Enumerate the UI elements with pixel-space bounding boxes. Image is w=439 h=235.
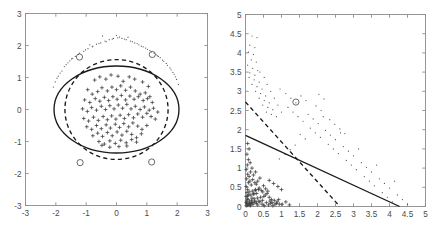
data-point-dot <box>87 48 88 49</box>
data-point-dot <box>361 162 362 163</box>
data-point-dot <box>264 77 265 78</box>
x-tick-label: 3 <box>205 209 210 218</box>
data-point-dot <box>356 169 357 170</box>
x-tick-label: 1 <box>279 210 284 219</box>
data-point-dot <box>287 107 288 108</box>
data-point-dot <box>59 72 60 73</box>
data-point-dot <box>256 37 257 38</box>
data-point-dot <box>335 139 336 140</box>
x-tick-label: 1 <box>145 209 150 218</box>
y-tick-label: 3 <box>237 87 242 96</box>
data-point-dot <box>254 79 255 80</box>
data-point-dot <box>320 137 321 138</box>
left-axis-frame <box>26 14 208 206</box>
data-point-dot <box>55 81 56 82</box>
right-data-points <box>244 35 408 207</box>
data-point-dot <box>346 160 347 161</box>
data-point-dot <box>126 39 127 40</box>
data-point-dot <box>407 204 408 205</box>
data-point-dot <box>257 70 258 71</box>
data-point-dot <box>281 111 282 112</box>
data-point-dot <box>261 88 262 89</box>
y-tick-label: -3 <box>14 202 22 211</box>
data-point-dot <box>75 56 76 57</box>
data-point-dot <box>274 98 275 99</box>
data-point-dot <box>134 42 135 43</box>
y-tick-label: 4.5 <box>230 30 242 39</box>
data-point-dot <box>251 59 252 60</box>
data-point-dot <box>315 132 316 133</box>
data-point-dot <box>178 84 179 85</box>
data-point-dot <box>310 128 311 129</box>
data-point-dot <box>285 93 286 94</box>
data-point-dot <box>162 60 163 61</box>
data-point-dot <box>259 71 260 72</box>
data-point-dot <box>389 187 390 188</box>
data-point-dot <box>158 56 159 57</box>
data-point-dot <box>323 98 324 99</box>
data-point-dot <box>176 79 177 80</box>
left-x-tick-labels: -3-2-10123 <box>22 209 210 218</box>
data-point-dot <box>387 197 388 198</box>
data-point-dot <box>259 98 260 99</box>
data-point-dot <box>313 118 314 119</box>
data-point-dot <box>269 102 270 103</box>
data-point-dot <box>394 181 395 182</box>
data-point-dot <box>264 100 265 101</box>
data-point-dot <box>249 45 250 46</box>
data-point-dot <box>160 57 161 58</box>
data-point-dot <box>72 58 73 59</box>
data-point-dot <box>106 41 107 42</box>
left-y-tick-labels: -3-2-10123 <box>14 10 22 211</box>
data-point-dot <box>127 37 128 38</box>
data-point-dot <box>169 67 170 68</box>
data-point-dot <box>376 164 377 165</box>
y-tick-label: -1 <box>14 138 22 147</box>
data-point-dot <box>249 72 250 73</box>
data-point-dot <box>71 58 72 59</box>
data-point-dot <box>402 199 403 200</box>
support-vector-marker <box>293 99 299 105</box>
data-point-dot <box>260 93 261 94</box>
data-point-dot <box>295 102 296 103</box>
dashed-boundary <box>246 102 340 206</box>
data-point-dot <box>256 61 257 62</box>
y-tick-label: 2.5 <box>230 107 242 116</box>
data-point-dot <box>53 86 54 87</box>
data-point-dot <box>348 151 349 152</box>
left-panel-axes: -3-2-10123 -3-2-10123 <box>14 10 210 219</box>
y-tick-label: 5 <box>237 11 242 20</box>
data-point-dot <box>340 132 341 133</box>
left-panel-svg: -3-2-10123 -3-2-10123 <box>0 0 220 235</box>
data-point-dot <box>172 72 173 73</box>
data-point-dot <box>323 116 324 117</box>
data-point-dot <box>305 138 306 139</box>
data-point-dot <box>369 181 370 182</box>
right-tick-marks <box>246 15 426 207</box>
data-point-dot <box>343 146 344 147</box>
data-point-dot <box>157 55 158 56</box>
y-tick-label: 2 <box>237 126 242 135</box>
data-point-dot <box>109 39 110 40</box>
data-point-dot <box>248 77 249 78</box>
data-point-dot <box>384 183 385 184</box>
solid-boundary <box>246 135 400 206</box>
data-point-dot <box>315 105 316 106</box>
right-x-tick-labels: 00.511.522.533.544.55 <box>243 210 428 219</box>
x-tick-label: 2.5 <box>330 210 342 219</box>
data-point-dot <box>308 114 309 115</box>
y-tick-label: 0.5 <box>230 183 242 192</box>
data-point-dot <box>147 49 148 50</box>
data-point-dot <box>382 192 383 193</box>
figure-container: -3-2-10123 -3-2-10123 00.511.522.533.544… <box>0 0 439 235</box>
x-tick-label: 5 <box>423 210 428 219</box>
data-point-dot <box>167 65 168 66</box>
left-tick-marks <box>26 14 208 206</box>
left-data-points <box>53 35 179 150</box>
data-point-dot <box>266 84 267 85</box>
data-point-dot <box>69 60 70 61</box>
data-point-dot <box>279 88 280 89</box>
y-tick-label: 3 <box>17 10 22 19</box>
data-point-dot <box>318 123 319 124</box>
x-tick-label: 3.5 <box>366 210 378 219</box>
